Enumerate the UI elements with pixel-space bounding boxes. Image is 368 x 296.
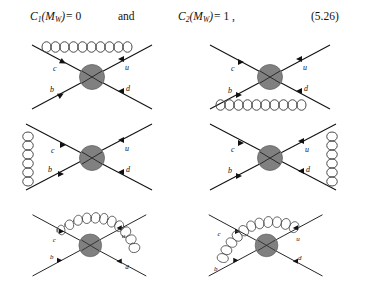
diagram-1-canvas: c u b d (8, 33, 176, 117)
label-u: u (125, 144, 129, 153)
diagram-5-canvas: c u b d (8, 199, 176, 283)
label-c: c (53, 64, 57, 73)
label-u: u (122, 232, 126, 240)
label-c: c (231, 145, 235, 154)
diagram-2-canvas: c u b d (186, 33, 354, 117)
label-c: c (53, 236, 57, 244)
equation-c2-symbol: C (178, 10, 186, 22)
diagram-4: c u b d (186, 114, 354, 198)
equation-conjunction: and (118, 11, 135, 23)
diagram-6: c u b d (186, 199, 354, 295)
gluon-bottom (216, 100, 306, 111)
equation-number: (5.26) (311, 11, 339, 23)
arrow-d (117, 259, 122, 264)
equation-c1-arg-open: (M (41, 10, 54, 22)
arrow-b (233, 258, 238, 263)
arrow-d (118, 88, 124, 94)
equation-c2-value: = 1 , (213, 10, 236, 22)
arrow-d (296, 88, 302, 94)
label-d: d (306, 165, 311, 174)
equation-row: C1(MW)= 0 and C2(MW)= 1 , (5.26) (0, 0, 368, 34)
equation-right-expression: C2(MW)= 1 , (178, 11, 236, 24)
label-b: b (228, 86, 232, 95)
arrow-c (59, 58, 67, 66)
arrow-d (298, 168, 304, 174)
label-u: u (303, 63, 307, 72)
label-b: b (228, 166, 232, 175)
equation-c1-value: = 0 (65, 10, 82, 22)
label-b: b (48, 165, 52, 174)
label-b: b (50, 253, 54, 261)
diagram-3: c u b d (8, 114, 176, 198)
gluon-right (327, 132, 338, 186)
label-d: d (125, 263, 129, 271)
equation-c2-arg-open: (M (189, 10, 202, 22)
label-c: c (231, 64, 235, 73)
gluon-top (42, 42, 132, 53)
diagram-5: c u b d (8, 199, 176, 295)
diagram-4-canvas: c u b d (186, 114, 354, 198)
arrow-b (57, 258, 62, 263)
label-d: d (304, 84, 309, 93)
label-c: c (218, 230, 222, 238)
arrow-u (118, 137, 124, 143)
equation-c1-symbol: C (30, 10, 38, 22)
label-u: u (296, 235, 300, 243)
diagram-2: c u b d (186, 33, 354, 117)
arrow-c (238, 59, 244, 65)
label-u: u (305, 145, 309, 154)
label-d: d (126, 165, 131, 174)
label-b: b (214, 265, 218, 273)
arrow-c (59, 229, 64, 234)
equation-left-expression: C1(MW)= 0 (30, 11, 82, 24)
label-b: b (50, 85, 54, 94)
feynman-diagram-grid: c u b d c u b d (0, 33, 368, 296)
label-d: d (126, 84, 131, 93)
diagram-1: c u b d (8, 33, 176, 117)
diagram-6-canvas: c u b d (186, 199, 354, 283)
gluon-left (23, 132, 34, 186)
label-c: c (51, 146, 55, 155)
label-d: d (298, 254, 302, 262)
diagram-3-canvas: c u b d (8, 114, 176, 198)
label-u: u (125, 63, 129, 72)
